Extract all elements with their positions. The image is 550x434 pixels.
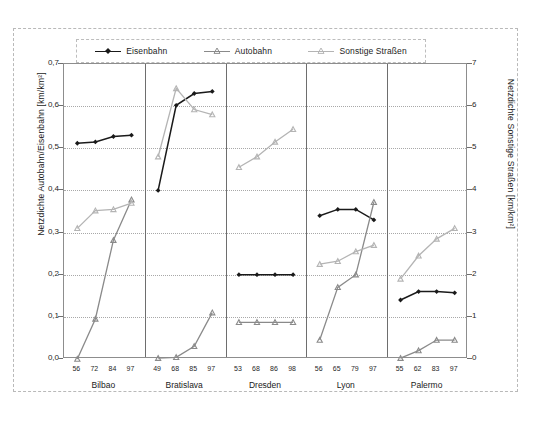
series-marker xyxy=(434,289,439,294)
chart-legend: Eisenbahn Autobahn Sonstige Straßen xyxy=(76,39,426,63)
series-marker xyxy=(237,272,242,277)
series-line xyxy=(320,209,374,220)
panel-city-label: Bilbao xyxy=(58,380,148,390)
series-line xyxy=(401,292,455,300)
series-line xyxy=(158,88,212,156)
series-marker xyxy=(156,188,161,193)
series-line xyxy=(401,340,455,358)
series-line xyxy=(158,91,212,190)
series-line xyxy=(158,313,212,359)
series-marker xyxy=(255,272,260,277)
legend-marker-triangle-icon xyxy=(204,46,230,56)
legend-label-sonstige-strassen: Sonstige Straßen xyxy=(339,46,406,56)
panel-city-label: Bratislava xyxy=(139,380,229,390)
series-marker xyxy=(291,272,296,277)
y-axis-right-tick-label: 5 xyxy=(472,142,476,151)
panel-city-label: Palermo xyxy=(382,380,472,390)
series-line xyxy=(77,135,131,143)
plot-area xyxy=(63,63,467,358)
series-marker xyxy=(273,272,278,277)
y-axis-left-label: Netzdichte Autobahn/Eisenbahn [km/km²] xyxy=(36,49,46,259)
series-line xyxy=(77,200,131,359)
series-marker xyxy=(416,289,421,294)
x-axis-tick-label: 97 xyxy=(119,365,141,372)
series-marker xyxy=(452,290,457,295)
series-line xyxy=(320,245,374,264)
series-line xyxy=(77,203,131,228)
series-marker xyxy=(75,141,80,146)
series-marker xyxy=(317,213,322,218)
y-axis-right-tick-label: 2 xyxy=(472,269,476,278)
series-marker xyxy=(398,298,403,303)
series-line xyxy=(320,202,374,340)
chart-figure: Eisenbahn Autobahn Sonstige Straßen Netz… xyxy=(13,28,518,392)
panel-city-label: Lyon xyxy=(301,380,391,390)
legend-label-autobahn: Autobahn xyxy=(235,46,272,56)
series-line xyxy=(239,129,293,167)
y-axis-right-tick-label: 1 xyxy=(472,311,476,320)
y-axis-left-tick-mark xyxy=(58,358,63,359)
x-axis-tick-label: 97 xyxy=(200,365,222,372)
x-axis-tick-label: 97 xyxy=(443,365,465,372)
legend-label-eisenbahn: Eisenbahn xyxy=(126,46,167,56)
series-marker xyxy=(371,243,376,248)
x-axis-tick-label: 97 xyxy=(362,365,384,372)
series-marker xyxy=(111,134,116,139)
panel-city-label: Dresden xyxy=(220,380,310,390)
series-marker xyxy=(210,310,215,315)
series-marker xyxy=(335,207,340,212)
series-marker xyxy=(93,140,98,145)
series-marker xyxy=(290,127,295,132)
legend-marker-triangle-light-icon xyxy=(308,46,334,56)
x-axis-tick-label: 98 xyxy=(281,365,303,372)
y-axis-right-tick-label: 3 xyxy=(472,227,476,236)
y-axis-right-tick-label: 0 xyxy=(472,353,476,362)
legend-item-eisenbahn: Eisenbahn xyxy=(95,46,167,56)
y-axis-right-tick-label: 6 xyxy=(472,100,476,109)
y-axis-right-label: Netzdichte Sonstige Straßen [km/km²] xyxy=(506,49,516,259)
legend-marker-diamond-icon xyxy=(95,46,121,56)
data-series-layer xyxy=(64,64,468,359)
series-marker xyxy=(129,133,134,138)
series-line xyxy=(401,228,455,279)
y-axis-right-tick-label: 7 xyxy=(472,58,476,67)
y-axis-right-tick-label: 4 xyxy=(472,184,476,193)
series-marker xyxy=(210,89,215,94)
series-marker xyxy=(452,226,457,231)
legend-item-autobahn: Autobahn xyxy=(204,46,272,56)
legend-item-sonstige-strassen: Sonstige Straßen xyxy=(308,46,406,56)
